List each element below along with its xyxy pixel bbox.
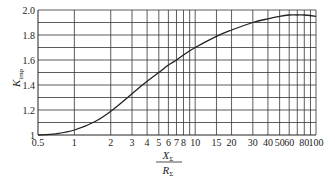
x-tick-label: 20 xyxy=(227,137,237,148)
x-tick-label: 60 xyxy=(284,137,294,148)
x-tick-label: 100 xyxy=(309,137,324,148)
y-tick-label: 1 xyxy=(30,130,35,141)
y-tick-label: 1.4 xyxy=(23,80,36,91)
y-tick-label: 1.8 xyxy=(23,30,36,41)
x-tick-labels: 0.5123456781015203040506080100 xyxy=(32,137,324,148)
x-tick-label: 8 xyxy=(181,137,186,148)
grid-lines xyxy=(38,10,316,135)
x-tick-label: 10 xyxy=(190,137,200,148)
data-series-kimp xyxy=(38,15,316,135)
x-tick-label: 5 xyxy=(156,137,161,148)
x-tick-label: 30 xyxy=(248,137,258,148)
x-tick-label: 4 xyxy=(145,137,150,148)
y-tick-label: 1.6 xyxy=(23,55,36,66)
svg-text:XΣ: XΣ xyxy=(162,149,174,163)
y-tick-label: 1.2 xyxy=(23,105,36,116)
chart: 0.5123456781015203040506080100 11.21.41.… xyxy=(0,0,335,180)
x-tick-label: 6 xyxy=(166,137,171,148)
x-tick-label: 40 xyxy=(263,137,273,148)
y-tick-label: 2.0 xyxy=(23,5,36,16)
x-tick-label: 3 xyxy=(130,137,135,148)
svg-text:RΣ: RΣ xyxy=(162,164,174,178)
x-tick-label: 7 xyxy=(174,137,179,148)
x-tick-label: 15 xyxy=(211,137,221,148)
x-tick-label: 2 xyxy=(108,137,113,148)
x-tick-label: 50 xyxy=(275,137,285,148)
x-tick-label: 1 xyxy=(72,137,77,148)
x-axis-label: XΣ RΣ xyxy=(156,149,182,178)
